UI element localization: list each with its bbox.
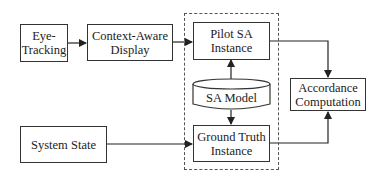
sa-model-label: SA Model xyxy=(193,91,270,106)
context-display-line1: Context-Aware xyxy=(92,29,168,43)
accordance-line2: Computation xyxy=(295,95,360,109)
pilot-sa-instance-node: Pilot SA Instance xyxy=(193,22,270,60)
ground-truth-line2: Instance xyxy=(197,144,265,158)
eye-tracking-line2: Tracking xyxy=(22,43,67,57)
context-aware-display-node: Context-Aware Display xyxy=(87,24,173,61)
eye-tracking-line1: Eye- xyxy=(22,29,67,43)
system-state-label: System State xyxy=(31,138,96,152)
ground-truth-instance-node: Ground Truth Instance xyxy=(193,125,270,162)
accordance-computation-node: Accordance Computation xyxy=(290,78,366,111)
ground-truth-line1: Ground Truth xyxy=(197,130,265,144)
pilot-sa-line1: Pilot SA xyxy=(210,27,253,41)
eye-tracking-node: Eye- Tracking xyxy=(20,24,68,62)
accordance-line1: Accordance xyxy=(295,81,360,95)
system-state-node: System State xyxy=(20,126,107,163)
pilot-sa-line2: Instance xyxy=(210,41,253,55)
context-display-line2: Display xyxy=(92,43,168,57)
